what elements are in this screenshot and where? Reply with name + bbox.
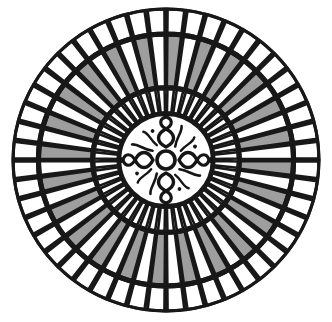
motif-hub (157, 151, 175, 169)
outer-ring-cell (147, 9, 165, 34)
inner-ring-cell (167, 207, 174, 231)
motif-terminal-knob (163, 202, 169, 208)
outer-ring-cell (147, 286, 165, 311)
rose-window-diagram (0, 0, 332, 322)
motif-terminal-knob (208, 157, 214, 163)
outer-ring-cell (167, 286, 185, 311)
outer-ring-cell (13, 142, 38, 159)
motif-terminal-knob (117, 157, 123, 163)
inner-ring-cell (94, 161, 118, 168)
outer-ring-cell (294, 161, 319, 178)
outer-ring-cell (167, 9, 185, 34)
inner-ring-cell (214, 152, 238, 159)
inner-ring-cell (158, 89, 165, 113)
motif-terminal-knob (163, 111, 169, 117)
outer-ring-cell (13, 161, 38, 178)
rose-window-figure (0, 0, 332, 322)
outer-ring-cell (294, 142, 319, 159)
